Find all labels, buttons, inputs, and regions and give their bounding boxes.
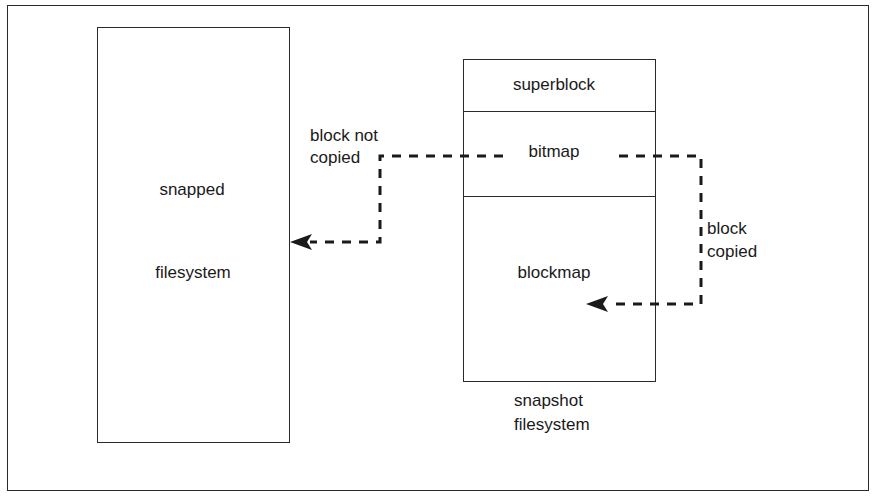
- snapped-filesystem-label-line1: snapped: [159, 179, 224, 201]
- snapshot-filesystem-caption-line2: filesystem: [514, 414, 590, 436]
- snapped-filesystem-label-line2: filesystem: [155, 262, 231, 284]
- block-copied-label-line2: copied: [707, 241, 757, 263]
- bitmap-blockmap-divider: [464, 196, 655, 197]
- snapshot-filesystem-caption-line1: snapshot: [514, 390, 583, 412]
- block-not-copied-label-line1: block not: [310, 125, 378, 147]
- block-copied-label-line1: block: [707, 218, 747, 240]
- superblock-section-label: superblock: [513, 74, 595, 96]
- bitmap-section-label: bitmap: [528, 141, 579, 163]
- blockmap-section-label: blockmap: [518, 262, 591, 284]
- snapped-filesystem-box: [97, 27, 290, 443]
- superblock-bitmap-divider: [464, 111, 655, 112]
- block-not-copied-label-line2: copied: [310, 147, 360, 169]
- snapshot-filesystem-box: [463, 59, 656, 382]
